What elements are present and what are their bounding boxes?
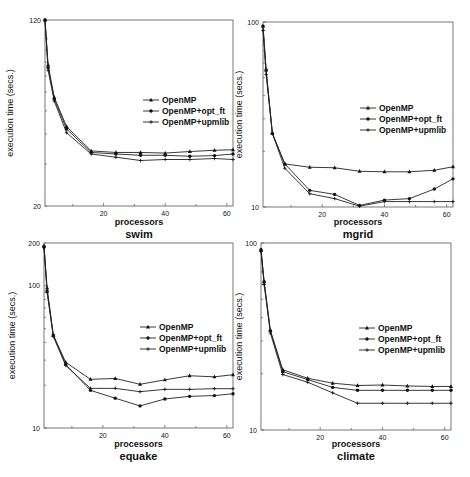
x-axis-label: processors [115,217,164,227]
chart-title: climate [337,450,375,462]
cross-marker [213,387,217,391]
series-line [261,250,451,387]
legend: OpenMPOpenMP+opt_ftOpenMP+upmlib [143,95,229,127]
circle-marker [333,193,336,196]
cross-marker [365,348,369,352]
circle-marker [431,389,434,392]
legend: OpenMPOpenMP+opt_ftOpenMP+upmlib [359,323,445,355]
y-tick-label: 10 [32,425,40,432]
x-tick-label: 20 [316,434,324,441]
cross-marker [408,200,412,204]
y-axis-label: execution time (secs.) [5,69,15,157]
chart-equake: 20406020010010execution time (secs.)proc… [7,240,235,463]
legend-item: OpenMP+upmlib [140,344,226,354]
cross-marker [113,387,117,391]
cross-marker [433,200,437,204]
legend-item: OpenMP [140,322,194,332]
cross-marker [281,373,285,377]
x-tick-label: 60 [443,211,451,218]
y-tick-label: 100 [247,19,259,26]
x-axis-label: processors [334,217,383,227]
y-tick-label: 100 [245,240,257,247]
legend-item: OpenMP+upmlib [143,117,229,127]
circle-marker [331,386,334,389]
cross-marker [356,401,360,405]
x-tick-label: 40 [161,210,169,217]
chart-mgrid: 20406010010execution time (secs.)process… [234,19,455,241]
series-openmp-upmlib [42,246,235,393]
y-tick-label: 100 [28,282,40,289]
circle-marker [308,189,311,192]
series-line [45,20,233,161]
chart-title: mgrid [343,228,374,240]
legend-label: OpenMP+upmlib [159,344,226,354]
series-line [263,26,453,172]
cross-marker [406,401,410,405]
cross-marker [163,388,167,392]
x-axis-label: processors [114,439,163,449]
series-line [44,246,233,406]
circle-marker [381,389,384,392]
cross-marker [381,401,385,405]
circle-marker [188,395,191,398]
legend-label: OpenMP [379,103,414,113]
cross-marker [449,401,453,405]
legend: OpenMPOpenMP+opt_ftOpenMP+upmlib [140,322,226,354]
circle-marker [188,155,191,158]
cross-marker [331,391,335,395]
legend-item: OpenMP+opt_ft [359,334,441,344]
series-line [44,248,233,392]
circle-marker [261,24,264,27]
triangle-marker [451,165,455,169]
circle-marker [163,397,166,400]
cross-marker [149,120,153,124]
legend-label: OpenMP+opt_ft [162,106,225,116]
x-tick-label: 60 [223,210,231,217]
cross-marker [138,390,142,394]
circle-marker [114,152,117,155]
series-openmp [261,24,455,173]
series-line [261,250,451,391]
cross-marker [188,158,192,162]
cross-marker [213,157,217,161]
y-axis-label: execution time (secs.) [234,293,244,381]
x-tick-label: 20 [100,210,108,217]
y-tick-label: 20 [33,203,41,210]
y-tick-label: 10 [251,204,259,211]
series-openmp-opt-ft [259,248,452,392]
cross-marker [431,401,435,405]
legend-label: OpenMP+opt_ft [159,333,222,343]
legend-item: OpenMP+upmlib [360,125,446,135]
legend-label: OpenMP [378,323,413,333]
cross-marker [163,158,167,162]
y-axis-label: execution time (secs.) [7,292,17,380]
legend-label: OpenMP+upmlib [378,345,445,355]
x-tick-label: 60 [441,434,449,441]
cross-marker [261,29,265,33]
circle-marker [366,117,369,120]
chart-title: equake [120,450,158,462]
legend-item: OpenMP [143,95,197,105]
circle-marker [365,337,368,340]
cross-marker [146,347,150,351]
cross-marker [114,155,118,159]
circle-marker [139,154,142,157]
cross-marker [306,380,310,384]
legend-label: OpenMP+opt_ft [378,334,441,344]
circle-marker [451,177,454,180]
legend-item: OpenMP [359,323,413,333]
legend-item: OpenMP+opt_ft [140,333,222,343]
y-tick-label: 200 [28,240,40,247]
chart-climate: 20406010010execution time (secs.)process… [234,240,453,463]
legend-item: OpenMP [360,103,414,113]
series-openmp [42,244,235,386]
series-line [45,20,233,153]
circle-marker [213,394,216,397]
cross-marker [139,159,143,163]
legend-item: OpenMP+opt_ft [360,114,442,124]
cross-marker [333,197,337,201]
cross-marker [188,388,192,392]
series-line [45,20,233,156]
circle-marker [231,392,234,395]
cross-marker [264,73,268,77]
